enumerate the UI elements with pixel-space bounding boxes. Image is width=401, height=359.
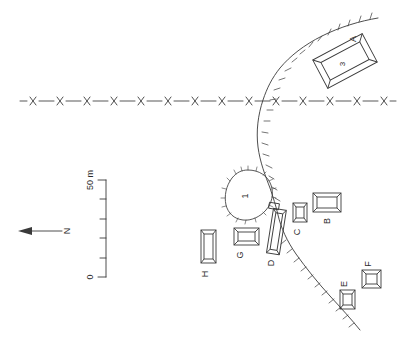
north-arrow (18, 227, 62, 235)
north-arrow-label: N (62, 228, 72, 235)
structure-H-label: H (200, 271, 210, 278)
site-plan-canvas: 1 3 A B (0, 0, 401, 359)
scale-bar-bottom-label: 0 (85, 274, 95, 279)
structure-D-label: D (266, 259, 276, 266)
structure-E (340, 290, 355, 309)
structure-B (313, 193, 341, 212)
structure-B-label: B (322, 218, 332, 224)
scale-bar-top-label: 50 m (85, 170, 95, 190)
structure-E-label: E (339, 281, 349, 287)
structure-A-label: A (348, 36, 358, 42)
structure-G (234, 228, 259, 245)
structure-F (362, 270, 381, 288)
structure-C-label: C (292, 228, 302, 235)
scale-bar (98, 180, 106, 277)
structure-C (293, 203, 307, 222)
structure-F-label: F (363, 261, 373, 267)
feature-label-1: 1 (240, 193, 250, 198)
structure-H (201, 230, 216, 263)
site-plan-figure: 1 3 A B (0, 0, 401, 359)
structure-G-label: G (235, 251, 245, 258)
structure-A-interior-label: 3 (338, 61, 347, 66)
structure-A (313, 34, 377, 89)
